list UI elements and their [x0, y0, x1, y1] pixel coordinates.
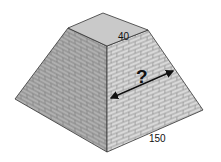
base-edge-label: 150 — [149, 133, 166, 144]
left-face — [15, 28, 107, 152]
top-edge-label: 40 — [118, 31, 130, 42]
frustum-diagram: 40 ? 150 — [0, 0, 221, 162]
unknown-label: ? — [136, 66, 148, 87]
